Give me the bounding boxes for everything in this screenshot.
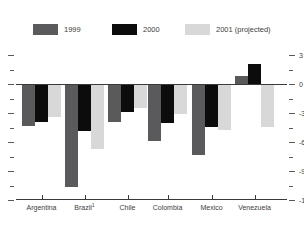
bar-venezuela-2001 xyxy=(261,85,274,127)
bar-brazil-2000 xyxy=(78,85,91,131)
bar-mexico-1999 xyxy=(192,85,205,155)
x-tick-brazil xyxy=(85,195,86,199)
x-tick-mexico xyxy=(212,195,213,199)
legend-label-1999: 1999 xyxy=(64,25,81,34)
y-axis-label: -9 xyxy=(299,168,304,175)
y-tick-minor-right xyxy=(289,157,293,158)
y-tick-minor-left xyxy=(10,70,14,71)
y-tick-major-right xyxy=(289,200,295,201)
legend-swatch-2000 xyxy=(112,24,137,35)
y-tick-major-left xyxy=(8,55,14,56)
bar-brazil-2001 xyxy=(91,85,104,149)
y-axis-label: 3 xyxy=(299,52,303,59)
y-tick-major-right xyxy=(289,171,295,172)
bar-brazil-1999 xyxy=(65,85,78,187)
y-tick-minor-right xyxy=(289,186,293,187)
y-tick-minor-right xyxy=(289,99,293,100)
bar-mexico-2001 xyxy=(218,85,231,130)
bar-chile-1999 xyxy=(108,85,121,122)
bar-colombia-2000 xyxy=(161,85,174,123)
bar-colombia-1999 xyxy=(148,85,161,141)
y-axis-label: 0 xyxy=(299,81,303,88)
legend-label-2001: 2001 (projected) xyxy=(216,25,271,34)
bar-chile-2000 xyxy=(121,85,134,112)
legend-swatch-2001 xyxy=(185,24,210,35)
x-axis-label-venezuela: Venezuela xyxy=(220,204,290,211)
y-axis-label: -3 xyxy=(299,110,304,117)
y-tick-minor-left xyxy=(10,186,14,187)
x-tick-argentina xyxy=(42,195,43,199)
bar-mexico-2000 xyxy=(205,85,218,127)
legend-label-2000: 2000 xyxy=(143,25,160,34)
bar-argentina-1999 xyxy=(22,85,35,126)
y-tick-minor-left xyxy=(10,157,14,158)
legend: 1999 2000 2001 (projected) xyxy=(0,24,304,36)
bar-chile-2001 xyxy=(134,85,147,108)
y-tick-minor-right xyxy=(289,128,293,129)
legend-item-2001: 2001 (projected) xyxy=(185,24,271,35)
bar-colombia-2001 xyxy=(174,85,187,114)
legend-item-1999: 1999 xyxy=(33,24,81,35)
plot-area: 30-3-6-9-12ArgentinaBrazil1ChileColombia… xyxy=(16,55,287,200)
x-tick-colombia xyxy=(168,195,169,199)
y-axis-label: -6 xyxy=(299,139,304,146)
y-tick-major-left xyxy=(8,171,14,172)
y-tick-major-right xyxy=(289,55,295,56)
y-tick-major-right xyxy=(289,113,295,114)
bar-venezuela-1999 xyxy=(235,76,248,84)
y-tick-minor-right xyxy=(289,70,293,71)
bar-argentina-2000 xyxy=(35,85,48,122)
y-tick-minor-left xyxy=(10,128,14,129)
bar-venezuela-2000 xyxy=(248,64,261,84)
chart-frame: 1999 2000 2001 (projected) 30-3-6-9-12Ar… xyxy=(0,0,304,232)
legend-item-2000: 2000 xyxy=(112,24,160,35)
x-tick-venezuela xyxy=(255,195,256,199)
bar-argentina-2001 xyxy=(48,85,61,117)
y-tick-major-right xyxy=(289,84,295,85)
y-tick-major-left xyxy=(8,200,14,201)
legend-swatch-1999 xyxy=(33,24,58,35)
y-axis-label: -12 xyxy=(299,197,304,204)
y-tick-minor-left xyxy=(10,99,14,100)
x-axis-baseline xyxy=(16,199,287,200)
x-tick-chile xyxy=(128,195,129,199)
y-tick-major-left xyxy=(8,113,14,114)
y-tick-major-right xyxy=(289,142,295,143)
y-tick-major-left xyxy=(8,142,14,143)
y-tick-major-left xyxy=(8,84,14,85)
